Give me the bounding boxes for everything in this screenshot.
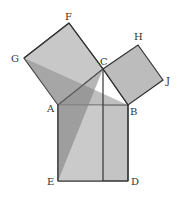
label-f: F (65, 11, 72, 22)
pythagorean-diagram: F G C H J A B E D (0, 0, 180, 197)
label-c: C (100, 56, 108, 67)
label-a: A (46, 103, 55, 114)
label-b: B (130, 106, 137, 117)
label-d: D (131, 176, 139, 187)
square-bchj (103, 45, 163, 105)
label-j: J (165, 75, 170, 86)
label-h: H (134, 31, 143, 42)
label-e: E (47, 176, 54, 187)
label-g: G (11, 53, 19, 64)
